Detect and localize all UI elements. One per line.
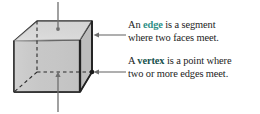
- term-vertex: vertex: [137, 55, 164, 66]
- callout-edge-line1-post: is a segment: [163, 19, 216, 30]
- face-marker-dot: [56, 27, 60, 31]
- callout-vertex-line1-post: is a point where: [164, 55, 231, 66]
- cube-illustration: [0, 0, 126, 114]
- callout-edge-line1-pre: An: [128, 19, 143, 30]
- callout-vertex-line1-pre: A: [128, 55, 137, 66]
- diagram-screenshot: An edge is a segment where two faces mee…: [0, 0, 260, 114]
- callout-vertex: A vertex is a point where two or more ed…: [128, 55, 260, 80]
- leader-vertex-arrowhead: [94, 70, 100, 75]
- cube-front-sheen: [14, 40, 80, 92]
- cube-figure: [0, 0, 126, 114]
- callout-edge-line2: where two faces meet.: [128, 32, 260, 45]
- cube-top-sheen: [14, 21, 92, 41]
- callout-vertex-line1: A vertex is a point where: [128, 55, 260, 68]
- callout-vertex-line2: two or more edges meet.: [128, 68, 260, 81]
- vertex-marker-dot: [90, 70, 95, 75]
- callout-text-group: An edge is a segment where two faces mee…: [126, 0, 260, 114]
- leader-edge-arrowhead: [94, 33, 100, 38]
- callout-edge: An edge is a segment where two faces mee…: [128, 19, 260, 44]
- callout-edge-line1: An edge is a segment: [128, 19, 260, 32]
- term-edge: edge: [143, 19, 163, 30]
